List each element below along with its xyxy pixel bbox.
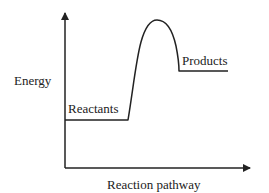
energy-profile-diagram: Energy Reactants Products Reaction pathw… <box>0 0 269 193</box>
y-axis-label: Energy <box>14 73 52 88</box>
x-axis-label: Reaction pathway <box>107 177 201 192</box>
reactants-label: Reactants <box>68 101 119 116</box>
products-label: Products <box>182 53 228 68</box>
